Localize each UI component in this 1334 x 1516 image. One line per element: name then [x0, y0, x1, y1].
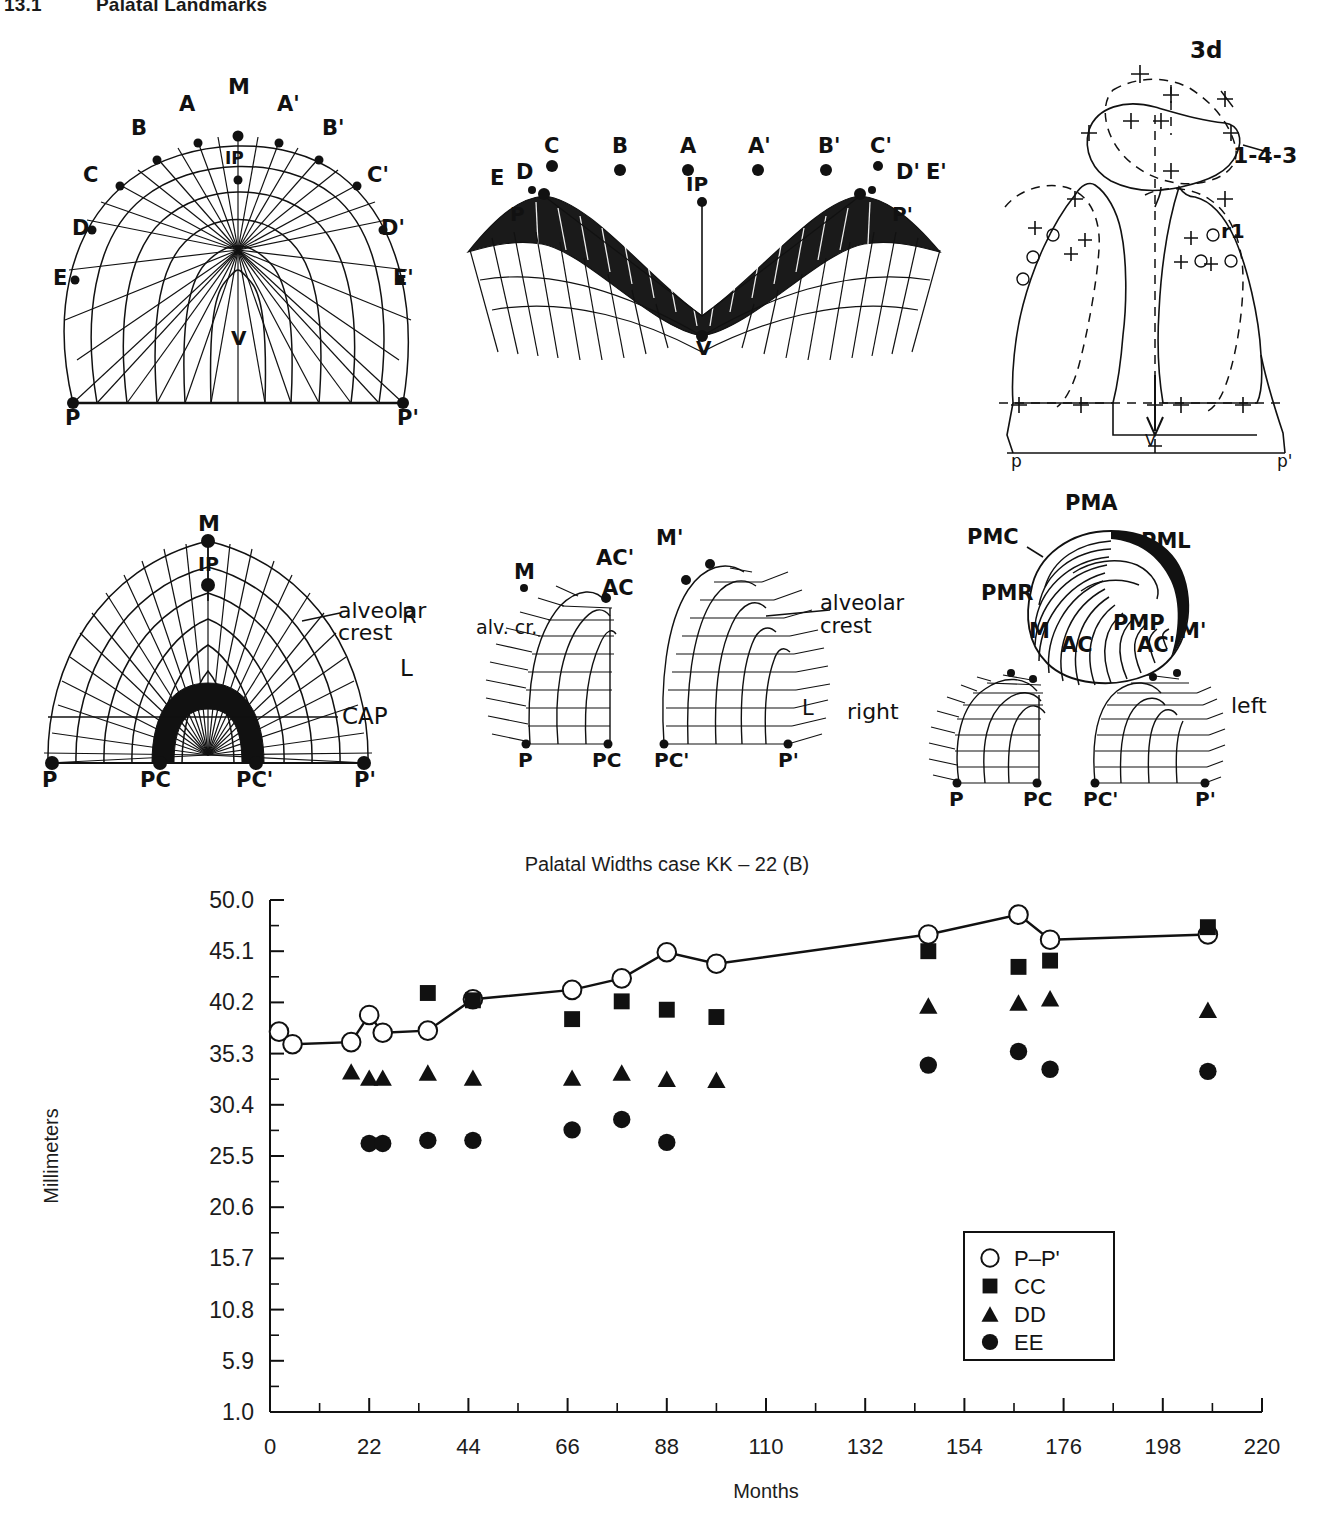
- y-axis-label: Millimeters: [40, 1108, 62, 1204]
- y-tick-label: 35.3: [209, 1041, 254, 1067]
- x-tick-label: 154: [946, 1434, 983, 1459]
- label-p-prime: p': [1277, 453, 1292, 470]
- label-B-prime: B': [818, 136, 840, 157]
- label-PC-prime: PC': [654, 750, 689, 770]
- x-tick-label: 198: [1144, 1434, 1181, 1459]
- label-PMR: PMR: [981, 583, 1033, 604]
- label-A: A: [680, 136, 696, 157]
- page-title: Palatal Landmarks: [96, 0, 267, 16]
- label-left: left: [1231, 695, 1267, 717]
- y-tick-label: 40.2: [209, 989, 254, 1015]
- label-right: right: [847, 701, 899, 723]
- label-P: P: [518, 750, 533, 770]
- y-tick-label: 5.9: [222, 1348, 254, 1374]
- cleft-tracing-drawing: [985, 35, 1315, 480]
- label-E-prime: E': [926, 162, 947, 183]
- label-V: V: [1145, 433, 1156, 449]
- label-alv-cr: alv. cr.: [476, 618, 537, 637]
- x-tick-label: 110: [748, 1434, 783, 1459]
- label-IP: IP: [198, 555, 219, 574]
- chart-canvas: 1.05.910.815.720.625.530.435.340.245.150…: [0, 840, 1334, 1516]
- label-M: M: [1029, 621, 1050, 642]
- legend-label: EE: [1014, 1330, 1043, 1355]
- label-P: P: [65, 408, 80, 429]
- section-number: 13.1: [4, 0, 42, 16]
- label-P: P: [510, 204, 525, 224]
- series-PP: [270, 905, 1217, 1053]
- label-P-prime: P': [397, 408, 419, 429]
- legend-label: DD: [1014, 1302, 1046, 1327]
- x-tick-label: 220: [1244, 1434, 1281, 1459]
- label-D-prime: D': [381, 218, 405, 239]
- label-PMC: PMC: [967, 527, 1019, 548]
- label-R: R: [402, 606, 417, 627]
- bilateral-cleft-drawing: [420, 520, 880, 815]
- label-AC-prime: AC': [1137, 635, 1175, 656]
- occlusal-palate-drawing: [35, 70, 435, 440]
- y-tick-label: 10.8: [209, 1297, 254, 1323]
- x-axis-label: Months: [733, 1480, 799, 1502]
- x-tick-label: 176: [1045, 1434, 1082, 1459]
- label-P: P: [42, 770, 57, 791]
- legend-label: CC: [1014, 1274, 1046, 1299]
- y-tick-label: 25.5: [209, 1143, 254, 1169]
- label-V: V: [231, 328, 246, 348]
- label-CAP: CAP: [342, 705, 388, 728]
- label-D: D: [72, 218, 89, 239]
- y-tick-label: 50.0: [209, 887, 254, 913]
- label-PC: PC: [1023, 789, 1052, 809]
- label-C: C: [544, 136, 559, 157]
- label-PC: PC: [592, 750, 621, 770]
- label-B-prime: B': [322, 118, 344, 139]
- palatal-widths-chart: Palatal Widths case KK – 22 (B) 1.05.910…: [0, 840, 1334, 1516]
- figure-premaxilla-segments: PMA PMC PML PMR PMP M M' AC AC' right le…: [905, 495, 1325, 815]
- label-PC-prime: PC': [236, 770, 273, 791]
- label-r1: r1: [1221, 221, 1245, 241]
- label-AC: AC: [602, 578, 634, 599]
- label-M: M: [514, 562, 535, 583]
- y-tick-label: 1.0: [222, 1399, 254, 1425]
- figure-cleft-palate-tracing: 3d 1-4-3 r1 p p' V: [985, 35, 1315, 480]
- label-PC-prime: PC': [1083, 789, 1118, 809]
- label-C-prime: C': [367, 165, 389, 186]
- label-D-prime: D': [896, 162, 920, 183]
- label-B: B: [131, 118, 147, 139]
- label-IP: IP: [225, 150, 244, 167]
- label-V: V: [696, 338, 711, 358]
- cap-drawing: [40, 505, 440, 810]
- y-tick-label: 45.1: [209, 938, 254, 964]
- label-PC: PC: [140, 770, 171, 791]
- x-tick-label: 44: [456, 1434, 480, 1459]
- label-M: M: [228, 76, 250, 98]
- x-tick-label: 0: [264, 1434, 276, 1459]
- label-E: E: [53, 268, 67, 289]
- label-E-prime: E': [393, 268, 414, 289]
- y-tick-label: 30.4: [209, 1092, 254, 1118]
- label-B: B: [612, 136, 628, 157]
- label-L: L: [802, 698, 814, 719]
- figure-palate-cap-diagram: M IP alveolarcrest L CAP P PC PC' P': [40, 505, 440, 810]
- label-L: L: [400, 657, 413, 680]
- label-P-prime: P': [778, 750, 799, 770]
- alveolar-crest-text: alveolarcrest: [820, 592, 904, 637]
- series-EE: [361, 1043, 1217, 1152]
- x-tick-label: 132: [847, 1434, 884, 1459]
- figure-bilateral-cleft-segments: R L M M' AC AC' alv. cr. alveolarcrest P…: [420, 520, 880, 815]
- label-M: M: [198, 513, 220, 535]
- x-tick-label: 88: [655, 1434, 679, 1459]
- page-header: 13.1 Palatal Landmarks: [0, 0, 1334, 20]
- label-C-prime: C': [870, 136, 892, 157]
- series-CC: [420, 919, 1216, 1027]
- label-D: D: [516, 162, 533, 183]
- y-tick-label: 20.6: [209, 1194, 254, 1220]
- label-AC-prime: AC': [596, 548, 634, 569]
- label-P-prime: P': [1195, 789, 1216, 809]
- x-tick-label: 66: [555, 1434, 579, 1459]
- label-E: E: [490, 168, 504, 189]
- label-1-4-3: 1-4-3: [1233, 145, 1297, 167]
- label-M-prime: M': [656, 528, 683, 549]
- label-PMA: PMA: [1065, 493, 1118, 514]
- label-C: C: [83, 165, 98, 186]
- label-p: p: [1011, 453, 1022, 470]
- y-tick-label: 15.7: [209, 1245, 254, 1271]
